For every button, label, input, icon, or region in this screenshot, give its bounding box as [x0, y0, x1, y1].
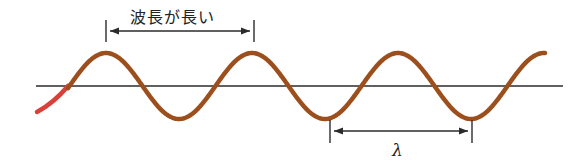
wave-svg [0, 0, 579, 165]
lambda-label: λ [392, 140, 403, 160]
wave-start-segment [37, 86, 68, 112]
long-wavelength-label: 波長が長い [130, 4, 215, 28]
wave-diagram: 波長が長い λ [0, 0, 579, 165]
